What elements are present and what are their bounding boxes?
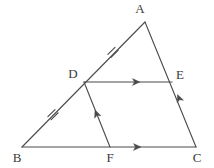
vertex-label-c: C [193,150,202,165]
vertex-label-e: E [176,67,184,82]
vertex-label-d: D [68,66,77,81]
tick-mark-ad [108,47,118,57]
vertex-label-b: B [13,150,22,165]
arrow-marker-df [92,109,101,118]
side-ac-line [145,22,196,147]
side-ab-line [22,22,145,147]
geometry-canvas: A B C D E F [0,0,214,168]
tick-bd-stroke-1 [48,110,55,117]
arrow-df-head [92,109,101,118]
vertex-label-a: A [135,1,145,16]
tick-ad-stroke-2 [111,50,118,57]
vertex-label-f: F [106,150,113,165]
geometry-diagram: A B C D E F [0,0,214,168]
